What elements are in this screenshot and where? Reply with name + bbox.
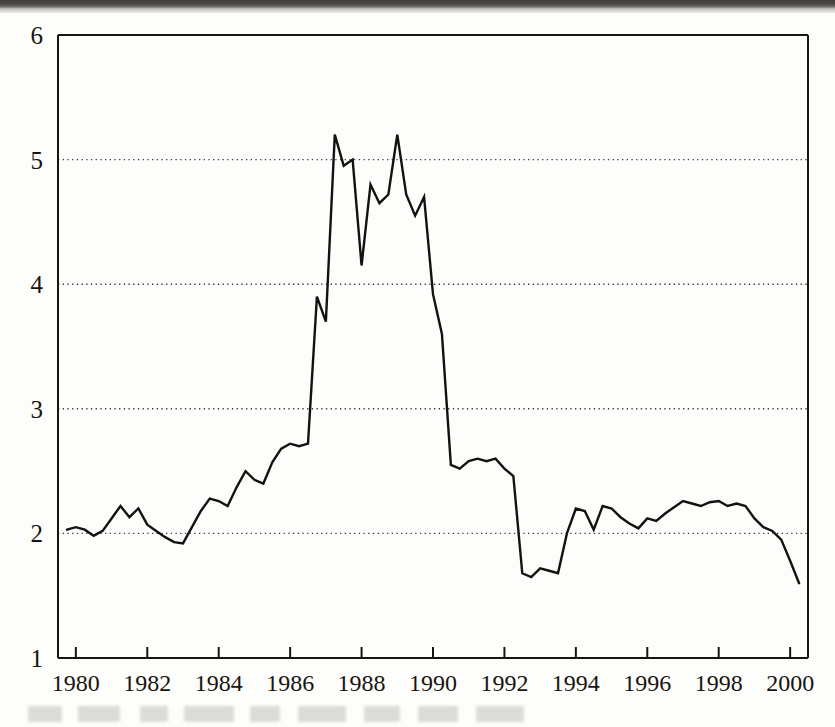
y-axis-tick-label: 5 [31,147,44,174]
x-axis-tick-label: 1980 [52,670,100,696]
y-axis-tick-label: 1 [31,645,44,672]
x-axis-tick-label: 2000 [766,670,814,696]
line-chart: 123456 198019821984198619881990199219941… [0,0,835,727]
x-axis-tick-label: 1988 [338,670,386,696]
plot-frame [58,35,808,658]
data-line-series-1 [67,135,799,584]
x-axis-tick-label: 1984 [195,670,243,696]
x-axis-tick-label: 1982 [123,670,171,696]
x-axis-tick-label: 1986 [266,670,314,696]
scan-artifact-caption-bleed [28,706,588,722]
x-axis-tick-label: 1990 [409,670,457,696]
figure-canvas: 123456 198019821984198619881990199219941… [0,0,835,727]
x-axis-tick-label: 1998 [695,670,743,696]
axis-ticks-layer [58,35,790,658]
y-axis-tick-label: 2 [31,520,44,547]
y-axis-tick-label: 3 [31,396,44,423]
x-axis-tick-label: 1992 [480,670,528,696]
gridlines-layer [58,160,808,534]
y-axis-tick-label: 4 [31,271,44,298]
x-axis-tick-label: 1996 [623,670,671,696]
y-axis-tick-label: 6 [31,22,44,49]
data-series-layer [67,135,799,584]
y-axis-tick-labels: 123456 [31,22,44,672]
x-axis-tick-label: 1994 [552,670,600,696]
x-axis-tick-labels: 1980198219841986198819901992199419961998… [52,670,814,696]
